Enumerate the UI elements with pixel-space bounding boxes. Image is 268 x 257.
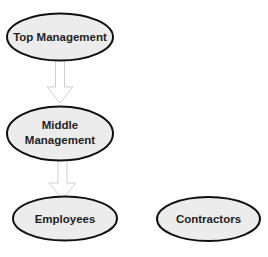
node-label-middle-line2: Management [25, 134, 95, 146]
node-label-top-management: Top Management [13, 31, 107, 43]
org-diagram: Top Management Middle Management Employe… [0, 0, 268, 257]
node-label-contractors: Contractors [176, 213, 241, 225]
node-employees[interactable]: Employees [13, 197, 117, 241]
node-label-employees: Employees [35, 213, 96, 225]
node-contractors[interactable]: Contractors [157, 197, 260, 241]
node-label-middle-line1: Middle [42, 119, 78, 131]
arrow-top-to-middle [47, 60, 73, 103]
node-middle-management[interactable]: Middle Management [7, 107, 113, 161]
node-top-management[interactable]: Top Management [7, 14, 113, 61]
arrow-middle-to-employees [49, 160, 76, 199]
